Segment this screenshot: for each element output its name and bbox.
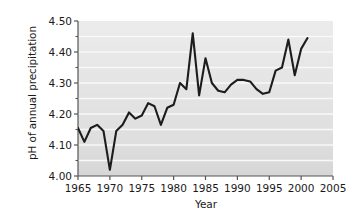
plot-area xyxy=(0,0,359,220)
chart-figure: pH of annual precipitation 4.004.104.204… xyxy=(0,0,359,220)
x-axis-ticks xyxy=(78,176,333,180)
